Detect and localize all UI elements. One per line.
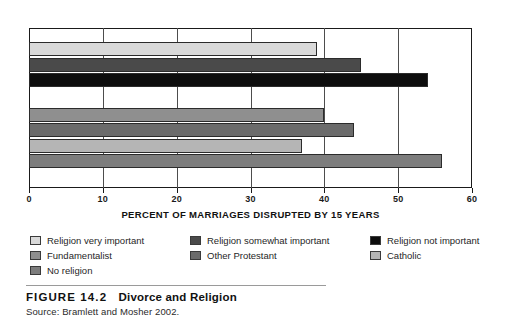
tick-mark xyxy=(251,188,252,193)
legend-swatch xyxy=(190,251,201,260)
legend-item: Religion not important xyxy=(370,235,510,246)
legend-label: Religion somewhat important xyxy=(207,235,330,246)
legend-swatch xyxy=(30,236,41,245)
tick-mark xyxy=(103,188,104,193)
bar-row xyxy=(29,42,472,56)
legend-label: Catholic xyxy=(387,250,421,261)
tick-label: 10 xyxy=(98,194,108,204)
figure-source: Source: Bramlett and Mosher 2002. xyxy=(26,306,446,317)
bar xyxy=(29,42,317,56)
legend-item: No religion xyxy=(30,265,190,276)
tick-label: 40 xyxy=(319,194,329,204)
legend-label: Religion very important xyxy=(47,235,144,246)
legend-item: Religion very important xyxy=(30,235,190,246)
tick-mark xyxy=(324,188,325,193)
legend-swatch xyxy=(370,236,381,245)
legend-label: Fundamentalist xyxy=(47,250,112,261)
bar-series xyxy=(29,28,472,188)
bar xyxy=(29,58,361,72)
figure-container: 0102030405060 PERCENT OF MARRIAGES DISRU… xyxy=(0,0,510,332)
caption-divider xyxy=(26,285,326,286)
tick-mark xyxy=(398,188,399,193)
tick-mark xyxy=(29,188,30,193)
bar-row xyxy=(29,154,472,168)
tick-label: 50 xyxy=(393,194,403,204)
bar-row xyxy=(29,73,472,87)
legend-swatch xyxy=(30,251,41,260)
chart-plot-area xyxy=(29,28,472,188)
legend-item: Religion somewhat important xyxy=(190,235,370,246)
tick-mark xyxy=(177,188,178,193)
bar xyxy=(29,154,442,168)
bar-row xyxy=(29,139,472,153)
figure-caption: FIGURE 14.2 Divorce and Religion Source:… xyxy=(26,291,446,317)
bar-row xyxy=(29,58,472,72)
bar xyxy=(29,123,354,137)
legend-item: Catholic xyxy=(370,250,510,261)
tick-label: 30 xyxy=(245,194,255,204)
legend-swatch xyxy=(370,251,381,260)
legend-swatch xyxy=(30,266,41,275)
bar-row xyxy=(29,108,472,122)
legend-label: Religion not important xyxy=(387,235,479,246)
tick-label: 20 xyxy=(171,194,181,204)
bar xyxy=(29,139,302,153)
legend-item: Other Protestant xyxy=(190,250,370,261)
chart-legend: Religion very importantReligion somewhat… xyxy=(30,235,490,276)
tick-label: 60 xyxy=(467,194,477,204)
legend-label: Other Protestant xyxy=(207,250,277,261)
figure-title: Divorce and Religion xyxy=(119,291,237,303)
legend-label: No religion xyxy=(47,265,92,276)
bar xyxy=(29,108,324,122)
legend-swatch xyxy=(190,236,201,245)
x-axis-title: PERCENT OF MARRIAGES DISRUPTED BY 15 YEA… xyxy=(29,209,472,220)
legend-item: Fundamentalist xyxy=(30,250,190,261)
tick-mark xyxy=(472,188,473,193)
x-axis-tick-labels: 0102030405060 xyxy=(0,194,510,208)
bar xyxy=(29,73,428,87)
bar-row xyxy=(29,123,472,137)
figure-number: FIGURE 14.2 xyxy=(26,291,107,303)
tick-label: 0 xyxy=(26,194,31,204)
